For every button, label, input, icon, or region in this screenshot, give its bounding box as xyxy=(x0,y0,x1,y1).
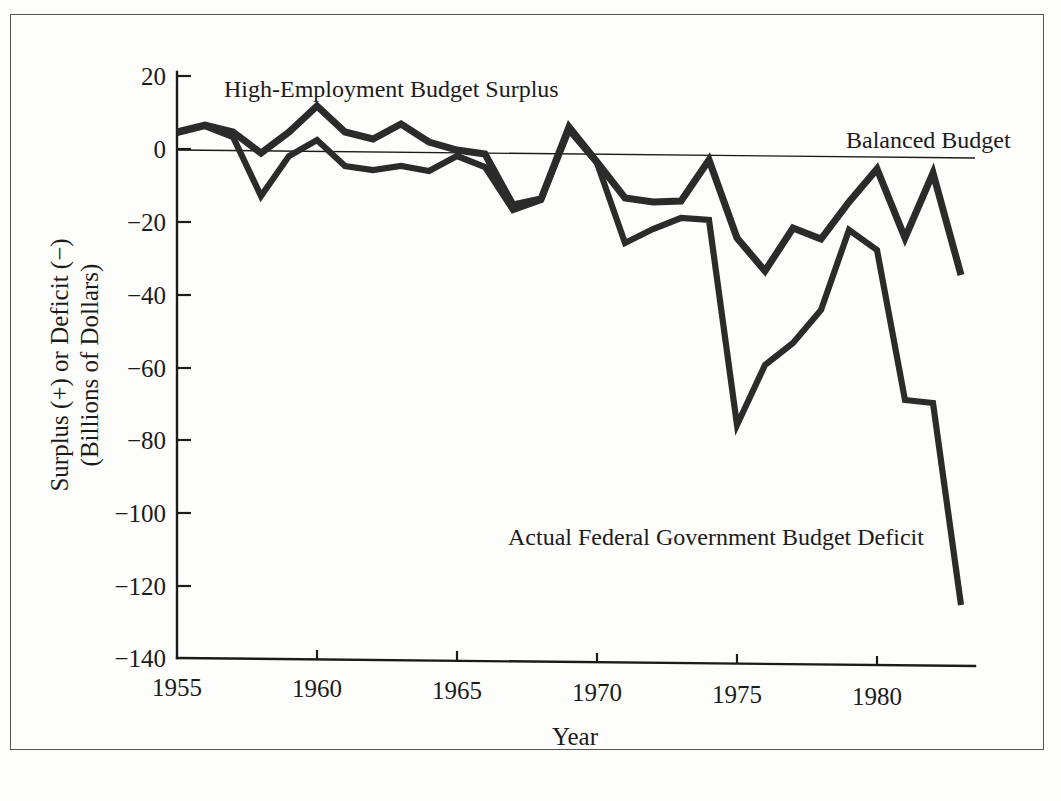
x-axis-title: Year xyxy=(552,723,599,750)
y-tick-label-m60: −60 xyxy=(127,355,166,382)
annotation-high-employment-budget-surplus: High-Employment Budget Surplus xyxy=(224,76,559,102)
budget-deficit-chart: 20 0 −20 −40 −60 −80 −100 −120 −140 1955… xyxy=(0,0,1061,801)
y-tick-label-20: 20 xyxy=(141,63,166,90)
x-axis xyxy=(177,658,975,666)
y-axis-title-line1: Surplus (+) or Deficit (−) xyxy=(46,238,74,491)
y-tick-label-0: 0 xyxy=(154,136,167,163)
x-tick-label-1970: 1970 xyxy=(572,679,622,706)
annotation-actual-federal-budget-deficit: Actual Federal Government Budget Deficit xyxy=(508,524,924,550)
x-tick-label-1975: 1975 xyxy=(712,681,762,708)
x-tick-label-1965: 1965 xyxy=(432,677,482,704)
annotation-balanced-budget: Balanced Budget xyxy=(846,127,1011,153)
y-tick-marks xyxy=(177,76,191,586)
y-tick-label-m100: −100 xyxy=(114,500,166,527)
x-tick-label-1980: 1980 xyxy=(852,683,902,710)
x-tick-label-1960: 1960 xyxy=(292,675,342,702)
figure-root: 20 0 −20 −40 −60 −80 −100 −120 −140 1955… xyxy=(0,0,1061,801)
y-tick-label-m140: −140 xyxy=(114,645,166,672)
y-tick-label-m80: −80 xyxy=(127,427,166,454)
y-tick-label-m120: −120 xyxy=(114,573,166,600)
x-tick-label-1955: 1955 xyxy=(152,674,202,701)
y-tick-label-m40: −40 xyxy=(127,282,166,309)
y-axis-title-line2: (Billions of Dollars) xyxy=(76,264,104,467)
y-tick-label-m20: −20 xyxy=(127,209,166,236)
